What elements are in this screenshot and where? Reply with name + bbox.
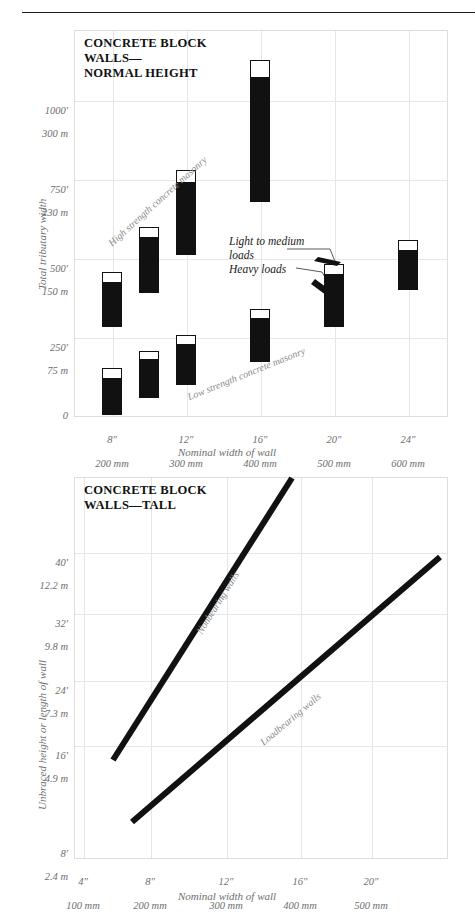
- chart-concrete-block-walls-normal-height: CONCRETE BLOCK WALLS— NORMAL HEIGHT Tota…: [0, 0, 475, 460]
- figure-page: CONCRETE BLOCK WALLS— NORMAL HEIGHT Tota…: [0, 0, 475, 922]
- callout-leaders-overlay: [0, 0, 475, 460]
- arrowhead-light-to-medium-icon: [314, 257, 341, 266]
- series-loadbearing-walls-line: [132, 557, 440, 822]
- chart-concrete-block-walls-tall: CONCRETE BLOCK WALLS—TALL Unbraced heigh…: [0, 460, 475, 922]
- tall-series-overlay: [0, 460, 475, 922]
- arrowhead-heavy-icon: [311, 279, 334, 298]
